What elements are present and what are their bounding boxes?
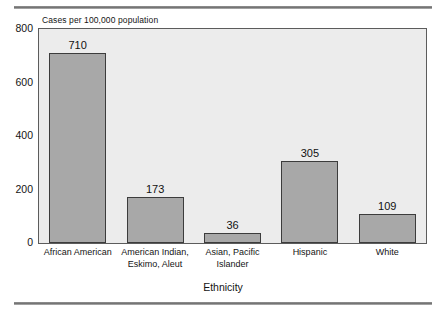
y-axis-tick-label: 400: [1, 129, 33, 141]
x-axis-category-label: Hispanic: [271, 247, 348, 259]
bar[interactable]: [127, 197, 184, 243]
y-axis-tick-label: 0: [1, 236, 33, 248]
x-axis-category-label-line: Islander: [194, 259, 271, 271]
y-axis-tick-label: 800: [1, 22, 33, 34]
top-divider-rule: [14, 6, 432, 9]
bar[interactable]: [359, 214, 416, 243]
bottom-divider-rule: [14, 302, 432, 305]
bar-slot: 305: [281, 29, 338, 243]
x-axis-title: Ethnicity: [0, 281, 446, 293]
x-axis-category-label-line: Eskimo, Aleut: [116, 259, 193, 271]
bar-value-label: 710: [49, 39, 106, 51]
x-axis-category-label: White: [349, 247, 426, 259]
bar-slot: 109: [359, 29, 416, 243]
x-axis-category-label-line: White: [349, 247, 426, 259]
plot-caption-label: Cases per 100,000 population: [42, 15, 158, 25]
bar-value-label: 173: [127, 183, 184, 195]
x-axis-category-label-line: Hispanic: [271, 247, 348, 259]
bar-value-label: 36: [204, 219, 261, 231]
bar-value-label: 109: [359, 200, 416, 212]
bars-layer: 71017336305109: [39, 29, 426, 243]
chart-figure: Cases per 100,000 population 02004006008…: [0, 0, 446, 315]
bar-slot: 173: [127, 29, 184, 243]
bar-slot: 710: [49, 29, 106, 243]
x-axis-category-label-line: African American: [39, 247, 116, 259]
x-axis-category-label: Asian, PacificIslander: [194, 247, 271, 270]
x-axis-category-label-line: American Indian,: [116, 247, 193, 259]
x-axis-category-label-line: Asian, Pacific: [194, 247, 271, 259]
x-axis-category-label: American Indian,Eskimo, Aleut: [116, 247, 193, 270]
bar-slot: 36: [204, 29, 261, 243]
bar[interactable]: [49, 53, 106, 243]
bar[interactable]: [281, 161, 338, 243]
y-axis-tick-label: 200: [1, 183, 33, 195]
bar-value-label: 305: [281, 147, 338, 159]
bar[interactable]: [204, 233, 261, 243]
y-axis-tick-label: 600: [1, 76, 33, 88]
x-axis-category-label: African American: [39, 247, 116, 259]
